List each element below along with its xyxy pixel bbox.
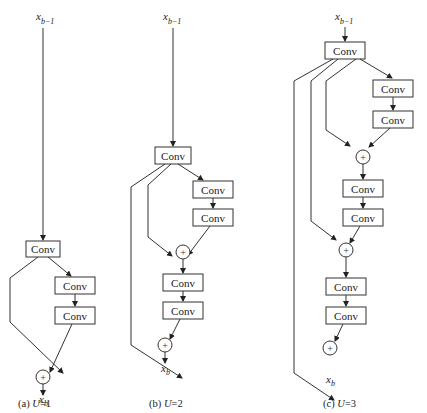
plus-icon: + — [180, 247, 186, 258]
residual-block-diagram: xb−1 Conv Conv Conv + xb (a) U=1 xb−1 Co… — [0, 0, 427, 413]
conv-label: Conv — [334, 281, 358, 293]
caption-a: (a) U=1 — [18, 398, 51, 410]
branch-arrow — [48, 257, 71, 276]
conv-label: Conv — [351, 183, 375, 195]
input-label-a: xb−1 — [35, 10, 54, 26]
conv-label: Conv — [201, 184, 225, 196]
skip-connection-middle — [311, 59, 338, 240]
caption-c: (c) U=3 — [323, 398, 356, 410]
input-label-b: xb−1 — [162, 10, 181, 26]
conv-label: Conv — [63, 310, 87, 322]
conv-label: Conv — [161, 150, 185, 162]
branch-arrow — [360, 59, 392, 78]
arrow — [188, 226, 210, 255]
conv-label: Conv — [381, 83, 405, 95]
arrow — [369, 128, 390, 147]
conv-label: Conv — [381, 114, 405, 126]
plus-icon: + — [360, 152, 366, 163]
skip-connection-outer — [131, 164, 182, 378]
arrow — [170, 319, 180, 339]
plus-icon: + — [343, 245, 349, 256]
conv-label: Conv — [333, 45, 357, 57]
caption-b: (b) U=2 — [149, 398, 183, 410]
conv-label: Conv — [171, 305, 195, 317]
arrow — [350, 226, 360, 243]
skip-connection-inner — [326, 59, 356, 146]
conv-label: Conv — [201, 212, 225, 224]
skip-connection-inner — [148, 164, 172, 256]
arrow — [335, 324, 343, 341]
panel-c: xb−1 Conv Conv Conv + Conv Conv + Conv — [294, 10, 413, 410]
panel-b: xb−1 Conv Conv Conv + Conv Conv + xb (b)… — [131, 10, 233, 410]
output-label-b: xb — [160, 362, 170, 377]
plus-icon: + — [327, 343, 333, 354]
conv-label: Conv — [351, 212, 375, 224]
plus-icon: + — [162, 340, 168, 351]
plus-icon: + — [40, 372, 46, 383]
conv-label: Conv — [63, 280, 87, 292]
branch-arrow — [178, 164, 203, 180]
conv-label: Conv — [334, 310, 358, 322]
arrow — [50, 324, 72, 372]
conv-label: Conv — [31, 243, 55, 255]
conv-label: Conv — [171, 277, 195, 289]
output-label-c: xb — [325, 373, 335, 388]
input-label-c: xb−1 — [334, 10, 353, 26]
panel-a: xb−1 Conv Conv Conv + xb (a) U=1 — [10, 10, 95, 410]
